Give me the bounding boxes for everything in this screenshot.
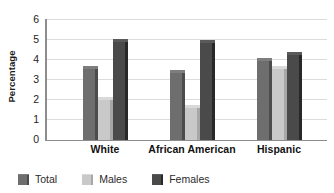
bar-top-shade [200, 40, 215, 43]
bar-top-shade [272, 66, 287, 69]
legend-swatch-side [91, 175, 94, 185]
legend-swatch-face [82, 175, 91, 185]
bar-slot [287, 19, 302, 140]
legend-label: Females [169, 173, 209, 185]
bar-total-african-american [170, 70, 185, 140]
bar-females-hispanic [287, 52, 302, 140]
bar-top-shade [113, 39, 128, 42]
bar-face [185, 105, 197, 140]
chart-legend: TotalMalesFemales [18, 170, 318, 188]
legend-swatch-icon [152, 174, 163, 185]
y-axis-tick-3: 3 [33, 74, 39, 85]
bar-slot [113, 19, 128, 140]
legend-swatch-top [152, 174, 163, 176]
legend-entry-males[interactable]: Males [82, 173, 127, 185]
bar-males-african-american [185, 105, 200, 140]
bar-group [248, 19, 310, 140]
legend-swatch-side [161, 175, 164, 185]
bar-total-hispanic [257, 58, 272, 140]
bar-slot [185, 19, 200, 140]
bar-face [113, 39, 125, 140]
bar-top-shade [257, 58, 272, 61]
bar-face [257, 58, 269, 140]
bar-slot [200, 19, 215, 140]
bar-slot [257, 19, 272, 140]
legend-label: Total [35, 173, 57, 185]
bar-top-shade [98, 97, 113, 100]
bar-face [200, 40, 212, 140]
bar-slot [98, 19, 113, 140]
y-axis-tick-1: 1 [33, 114, 39, 125]
bar-slot [170, 19, 185, 140]
bar-face [287, 52, 299, 140]
legend-swatch-top [18, 174, 29, 176]
y-axis-title-label: Percentage [6, 50, 17, 102]
legend-swatch-icon [18, 174, 29, 185]
bar-group [161, 19, 223, 140]
legend-label: Males [99, 173, 127, 185]
y-axis-tick-5: 5 [33, 34, 39, 45]
bar-females-white [113, 39, 128, 140]
bar-side-shade [125, 42, 128, 141]
y-axis-tick-4: 4 [33, 54, 39, 65]
bar-side-shade [212, 43, 215, 141]
bar-top-shade [170, 70, 185, 73]
bar-face [98, 97, 110, 140]
legend-entry-females[interactable]: Females [152, 173, 209, 185]
legend-swatch-icon [82, 174, 93, 185]
bar-males-white [98, 97, 113, 140]
bars-layer [45, 19, 327, 140]
bar-females-african-american [200, 40, 215, 140]
y-axis-tick-labels: 6543210 [22, 14, 42, 140]
legend-entry-total[interactable]: Total [18, 173, 57, 185]
bar-face [170, 70, 182, 140]
legend-swatch-face [152, 175, 161, 185]
legend-swatch-face [18, 175, 27, 185]
bar-top-shade [185, 105, 200, 108]
x-axis-category-labels: WhiteAfrican AmericanHispanic [45, 143, 327, 159]
y-axis-tick-2: 2 [33, 94, 39, 105]
x-axis-label-hispanic: Hispanic [219, 143, 334, 155]
bar-top-shade [287, 52, 302, 55]
bar-side-shade [299, 55, 302, 141]
bar-face [272, 66, 284, 140]
bar-males-hispanic [272, 66, 287, 140]
y-axis-title: Percentage [0, 12, 22, 140]
y-axis-tick-6: 6 [33, 14, 39, 25]
plot-area [45, 19, 327, 141]
bar-slot [272, 19, 287, 140]
legend-swatch-top [82, 174, 93, 176]
bar-slot [83, 19, 98, 140]
bar-top-shade [83, 66, 98, 69]
bar-group [74, 19, 136, 140]
y-axis-tick-0: 0 [33, 134, 39, 145]
legend-swatch-side [27, 175, 30, 185]
bar-face [83, 66, 95, 140]
grouped-bar-chart: Percentage 6543210 WhiteAfrican American… [0, 0, 334, 193]
bar-total-white [83, 66, 98, 140]
